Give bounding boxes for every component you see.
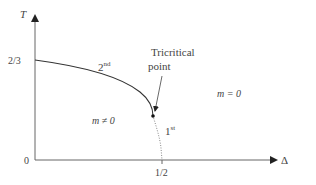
phase-diagram: T Δ 0 2/3 1/2 2nd 1st Tricritical point … [0,0,316,185]
origin-label: 0 [24,155,29,166]
x-axis-label: Δ [281,154,288,166]
first-order-label: 1st [165,124,175,137]
second-order-line [35,60,153,116]
tricritical-label-line2: point [148,60,171,72]
ordered-region-label: m ≠ 0 [92,115,115,126]
second-order-label: 2nd [98,60,111,73]
tricritical-point [151,114,155,118]
tricritical-arrow [155,76,162,111]
y-axis-label: T [20,8,27,20]
tricritical-label-line1: Tricritical [151,46,195,58]
disordered-region-label: m = 0 [217,88,241,99]
first-order-line [153,116,162,160]
y-tick-label: 2/3 [8,55,21,66]
x-tick-label: 1/2 [155,167,168,178]
